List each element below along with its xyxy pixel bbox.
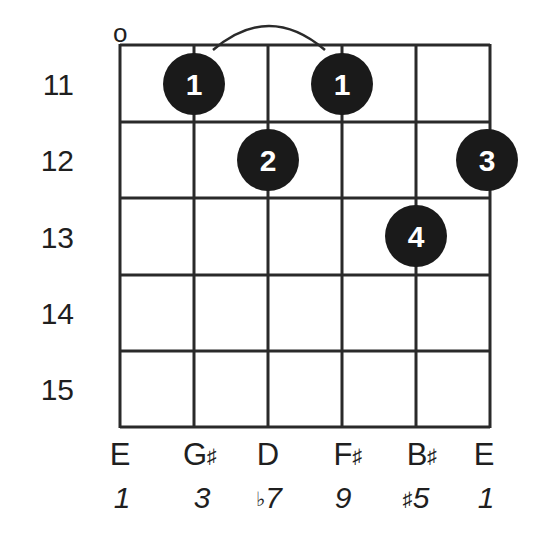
chord-diagram: 1 1 2 3 4 o 11 12 13 14 15 E G♯ D F♯ B♯ … [0, 0, 535, 556]
interval-number: 7 [265, 481, 282, 514]
finger-dot: 3 [456, 129, 518, 191]
sharp-accidental: ♯ [207, 445, 217, 467]
fret-number: 14 [14, 299, 74, 329]
string-note: E [90, 439, 150, 474]
interval-number: 5 [413, 481, 430, 514]
flat-accidental: ♭ [256, 488, 265, 510]
interval-number: 1 [478, 481, 495, 514]
string-note: F♯ [318, 439, 378, 474]
sharp-accidental: ♯ [427, 445, 437, 467]
finger-dot: 1 [163, 53, 225, 115]
interval-label: ♭7 [239, 482, 299, 517]
string-note: B♯ [392, 439, 452, 474]
note-letter: D [257, 437, 279, 472]
interval-label: 3 [172, 482, 232, 517]
note-letter: E [110, 437, 131, 472]
note-letter: B [407, 437, 428, 472]
sharp-accidental: ♯ [352, 445, 362, 467]
string-note: E [454, 439, 514, 474]
finger-number: 1 [334, 68, 351, 101]
interval-label: ♯5 [386, 482, 446, 517]
fret-number: 11 [14, 70, 74, 100]
interval-number: 9 [335, 481, 352, 514]
note-letter: E [474, 437, 495, 472]
string-note: G♯ [170, 439, 230, 474]
fret-number: 12 [14, 146, 74, 176]
interval-label: 9 [313, 482, 373, 517]
finger-number: 4 [408, 220, 425, 253]
sharp-accidental: ♯ [403, 488, 413, 510]
finger-dot: 2 [237, 129, 299, 191]
open-string-marker: o [113, 20, 127, 46]
finger-number: 3 [479, 144, 496, 177]
note-letter: G [183, 437, 207, 472]
fret-number: 15 [14, 375, 74, 405]
interval-number: 1 [114, 481, 131, 514]
interval-number: 3 [194, 481, 211, 514]
interval-label: 1 [456, 482, 516, 517]
interval-label: 1 [92, 482, 152, 517]
fret-number: 13 [14, 223, 74, 253]
finger-dot: 4 [385, 205, 447, 267]
finger-dot: 1 [311, 53, 373, 115]
note-letter: F [334, 437, 353, 472]
finger-number: 2 [260, 144, 277, 177]
finger-number: 1 [186, 68, 203, 101]
string-note: D [238, 439, 298, 474]
